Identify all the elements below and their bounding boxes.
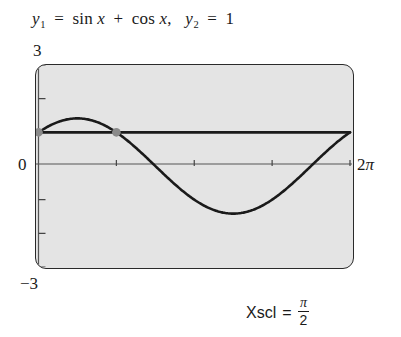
origin-label: 0 xyxy=(18,155,27,175)
plus-sign: + xyxy=(114,9,124,28)
y2-subscript: 2 xyxy=(193,19,198,30)
equals-sign-1: = xyxy=(54,9,64,28)
cos-function: cos xyxy=(132,9,155,28)
equals-sign-2: = xyxy=(207,9,217,28)
sin-argument-x: x xyxy=(97,9,105,28)
y-axis-ticks xyxy=(39,65,46,267)
y1-subscript: 1 xyxy=(40,19,45,30)
xscl-caption: Xscl = π 2 xyxy=(246,297,309,328)
calculator-screen xyxy=(35,64,354,269)
equation-title: y1 = sin x + cos x, y2 = 1 xyxy=(32,9,234,30)
xscl-equals: = xyxy=(282,304,291,322)
x-max-number: 2 xyxy=(357,155,366,174)
fraction-numerator: π xyxy=(298,296,309,311)
xscl-label: Xscl xyxy=(246,304,276,322)
fraction-denominator: 2 xyxy=(298,312,310,327)
y2-symbol: y xyxy=(185,9,193,28)
xscl-fraction: π 2 xyxy=(298,296,310,327)
intersection-dot xyxy=(112,128,121,137)
y-min-label: −3 xyxy=(20,274,38,294)
y-max-label: 3 xyxy=(33,41,42,61)
x-max-label: 2π xyxy=(357,155,374,175)
y2-value: 1 xyxy=(226,9,235,28)
plot-area xyxy=(36,65,353,268)
pi-symbol: π xyxy=(366,155,375,174)
y1-symbol: y xyxy=(32,9,40,28)
sin-function: sin xyxy=(72,9,92,28)
comma-separator: , xyxy=(167,9,171,28)
graph-svg xyxy=(36,65,352,267)
